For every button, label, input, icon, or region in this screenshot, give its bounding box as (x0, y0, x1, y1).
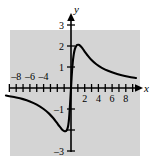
x-tick-label: 6 (110, 93, 115, 104)
y-axis-label: y (73, 3, 79, 15)
x-tick-label: 8 (123, 93, 128, 104)
x-tick-label: –8 (10, 71, 21, 82)
y-tick-label: 1 (59, 62, 64, 73)
y-tick-label: 3 (59, 20, 64, 31)
x-tick-label: –6 (24, 71, 35, 82)
x-tick-label: –4 (38, 71, 49, 82)
x-axis-label: x (143, 82, 149, 94)
x-tick-label: 4 (96, 93, 101, 104)
y-tick-label: 2 (59, 41, 64, 52)
y-tick-label: –3 (53, 146, 64, 157)
x-tick-label: 2 (82, 93, 87, 104)
plot-canvas: –8–6–42468321–1–3 x y (0, 0, 151, 163)
y-tick-label: –1 (53, 104, 64, 115)
function-graph-figure: –8–6–42468321–1–3 x y (0, 0, 151, 163)
